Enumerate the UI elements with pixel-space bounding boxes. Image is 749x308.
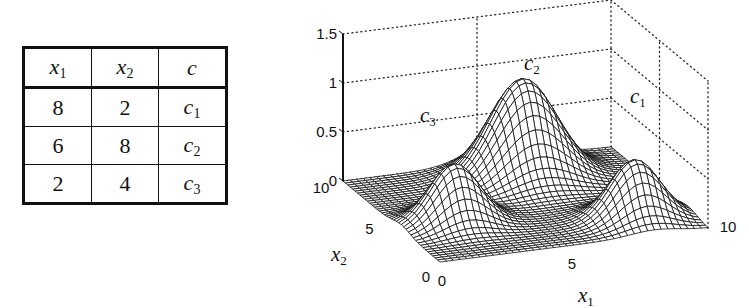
svg-text:5: 5 [365, 220, 373, 237]
svg-text:0: 0 [422, 268, 430, 285]
svg-text:10: 10 [720, 218, 737, 235]
svg-text:5: 5 [568, 255, 576, 272]
svg-text:c2: c2 [524, 51, 540, 77]
svg-text:1: 1 [329, 74, 337, 91]
surface-mesh [343, 79, 708, 262]
surface-plot: 00.511.505100510 x1x2c1c2c3 [0, 0, 749, 308]
svg-text:0: 0 [329, 172, 337, 189]
svg-text:10: 10 [313, 179, 330, 196]
svg-text:x2: x2 [330, 242, 347, 268]
svg-text:0.5: 0.5 [316, 123, 337, 140]
svg-text:c1: c1 [630, 84, 646, 110]
svg-text:x1: x1 [577, 283, 594, 308]
svg-text:0: 0 [438, 272, 446, 289]
svg-text:1.5: 1.5 [316, 25, 337, 42]
svg-text:c3: c3 [420, 103, 436, 129]
